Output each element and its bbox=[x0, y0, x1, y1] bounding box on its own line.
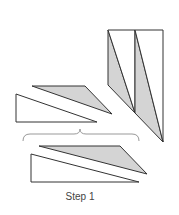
bottom-triangle-pair bbox=[31, 146, 147, 182]
quilt-diagram bbox=[0, 0, 179, 215]
middle-triangle-pair bbox=[16, 86, 112, 122]
step-caption: Step 1 bbox=[0, 191, 160, 202]
curly-brace bbox=[23, 129, 139, 141]
vertical-strip-group bbox=[108, 30, 163, 142]
